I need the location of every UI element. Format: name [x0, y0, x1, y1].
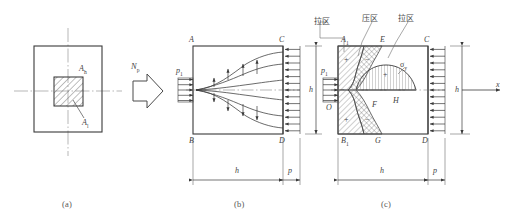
label-c-p1: p1: [321, 66, 328, 77]
label-b-dim-height: h: [309, 85, 313, 94]
label-c-C: C: [424, 35, 429, 44]
label-b-corner-D: D: [279, 136, 285, 145]
incoming-load-b: [178, 78, 193, 102]
label-b-corner-C: C: [279, 35, 284, 44]
label-c-B1: B1: [341, 136, 349, 147]
outgoing-load-c: [428, 46, 445, 134]
caption-a: (a): [62, 199, 72, 209]
label-c-G: G: [375, 136, 381, 145]
label-b-dim-length: h: [235, 166, 239, 175]
label-Al: Al: [82, 118, 88, 129]
anchor-area-square: [54, 77, 83, 106]
caption-c: (c): [381, 199, 391, 209]
zone-label-tension-right: 拉区: [398, 12, 415, 23]
label-Np: Np: [131, 61, 139, 73]
incoming-load-c: [323, 78, 338, 102]
panel-b-group: [178, 46, 322, 185]
label-c-H: H: [393, 96, 399, 105]
label-c-A1: A1: [341, 35, 349, 46]
dimension-bottom-b: [193, 138, 300, 185]
sign-upper-compression: −: [365, 55, 370, 64]
panel-a-group: [14, 28, 122, 156]
label-c-dim-edge: p: [433, 166, 437, 175]
dimension-height-b: [305, 46, 322, 134]
panel-c-group: [320, 22, 500, 185]
label-b-corner-A: A: [189, 35, 194, 44]
caption-b: (b): [234, 199, 245, 209]
label-b-corner-B: B: [189, 136, 194, 145]
label-c-dim-length: h: [380, 166, 384, 175]
label-c-D: D: [422, 136, 428, 145]
zone-label-compression: 压区: [362, 12, 379, 23]
np-block-arrow: [133, 74, 163, 108]
label-c-O: O: [326, 103, 332, 112]
label-c-sigma-y: σy: [400, 60, 407, 71]
label-c-dim-height: h: [455, 85, 459, 94]
np-block-arrow-group: [133, 74, 163, 108]
label-c-F: F: [372, 100, 377, 109]
label-Ah: Ah: [79, 64, 87, 75]
label-c-x-axis: x: [496, 80, 500, 89]
sign-lower-tension: +: [344, 115, 349, 124]
outgoing-load-b: [283, 46, 300, 134]
engineering-diagram: [0, 0, 512, 220]
zone-label-tension-left: 拉区: [314, 15, 331, 26]
sign-mid-left: −: [340, 85, 345, 94]
label-b-dim-edge: p: [288, 166, 292, 175]
sign-lower-compression: −: [365, 115, 370, 124]
label-c-E: E: [380, 35, 385, 44]
sign-upper-tension: +: [344, 55, 349, 64]
sign-bulge: +: [383, 70, 388, 79]
label-b-p1: p1: [176, 66, 183, 77]
dimension-bottom-c: [338, 138, 445, 185]
figure-container: Ah Al Np A C B D p1 h h p 拉区 压区 拉区 A1 E …: [0, 0, 512, 220]
